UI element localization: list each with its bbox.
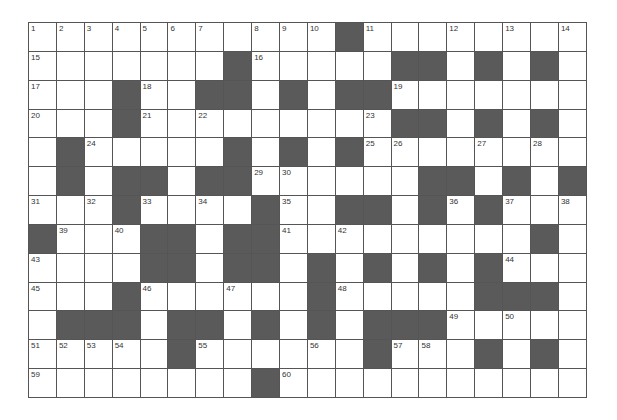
crossword-cell[interactable]: 34 [196, 196, 224, 225]
crossword-cell[interactable] [336, 369, 364, 398]
crossword-cell[interactable] [113, 369, 141, 398]
crossword-cell[interactable] [113, 254, 141, 283]
crossword-cell[interactable]: 11 [364, 23, 392, 52]
crossword-cell[interactable]: 54 [113, 340, 141, 369]
crossword-cell[interactable] [364, 52, 392, 81]
crossword-cell[interactable] [531, 254, 559, 283]
crossword-cell[interactable] [447, 81, 475, 110]
crossword-cell[interactable] [531, 81, 559, 110]
crossword-cell[interactable] [280, 340, 308, 369]
crossword-cell[interactable] [503, 138, 531, 167]
crossword-cell[interactable] [336, 110, 364, 139]
crossword-cell[interactable] [57, 196, 85, 225]
crossword-cell[interactable] [392, 369, 420, 398]
crossword-cell[interactable] [447, 369, 475, 398]
crossword-cell[interactable] [447, 52, 475, 81]
crossword-cell[interactable]: 47 [224, 283, 252, 312]
crossword-cell[interactable]: 41 [280, 225, 308, 254]
crossword-cell[interactable]: 13 [503, 23, 531, 52]
crossword-cell[interactable] [85, 225, 113, 254]
crossword-cell[interactable] [559, 340, 587, 369]
crossword-cell[interactable]: 46 [141, 283, 169, 312]
crossword-cell[interactable]: 31 [29, 196, 57, 225]
crossword-cell[interactable] [29, 167, 57, 196]
crossword-cell[interactable]: 17 [29, 81, 57, 110]
crossword-cell[interactable]: 39 [57, 225, 85, 254]
crossword-cell[interactable] [447, 254, 475, 283]
crossword-cell[interactable] [503, 52, 531, 81]
crossword-cell[interactable] [308, 167, 336, 196]
crossword-cell[interactable]: 1 [29, 23, 57, 52]
crossword-cell[interactable] [559, 110, 587, 139]
crossword-cell[interactable] [196, 283, 224, 312]
crossword-cell[interactable] [392, 254, 420, 283]
crossword-cell[interactable] [113, 52, 141, 81]
crossword-cell[interactable] [447, 225, 475, 254]
crossword-cell[interactable] [57, 369, 85, 398]
crossword-cell[interactable] [475, 369, 503, 398]
crossword-cell[interactable]: 8 [252, 23, 280, 52]
crossword-cell[interactable]: 18 [141, 81, 169, 110]
crossword-cell[interactable] [168, 196, 196, 225]
crossword-cell[interactable] [141, 340, 169, 369]
crossword-cell[interactable] [29, 138, 57, 167]
crossword-cell[interactable] [85, 254, 113, 283]
crossword-cell[interactable]: 35 [280, 196, 308, 225]
crossword-cell[interactable] [168, 369, 196, 398]
crossword-cell[interactable]: 48 [336, 283, 364, 312]
crossword-cell[interactable] [364, 167, 392, 196]
crossword-cell[interactable] [252, 110, 280, 139]
crossword-cell[interactable] [475, 311, 503, 340]
crossword-cell[interactable] [336, 340, 364, 369]
crossword-cell[interactable]: 55 [196, 340, 224, 369]
crossword-cell[interactable] [503, 369, 531, 398]
crossword-cell[interactable] [559, 283, 587, 312]
crossword-cell[interactable] [57, 254, 85, 283]
crossword-cell[interactable] [252, 138, 280, 167]
crossword-cell[interactable] [141, 311, 169, 340]
crossword-cell[interactable] [364, 283, 392, 312]
crossword-cell[interactable] [280, 283, 308, 312]
crossword-cell[interactable] [168, 110, 196, 139]
crossword-cell[interactable]: 6 [168, 23, 196, 52]
crossword-cell[interactable] [503, 110, 531, 139]
crossword-cell[interactable]: 26 [392, 138, 420, 167]
crossword-cell[interactable]: 16 [252, 52, 280, 81]
crossword-cell[interactable] [252, 283, 280, 312]
crossword-cell[interactable]: 52 [57, 340, 85, 369]
crossword-cell[interactable] [531, 196, 559, 225]
crossword-cell[interactable] [531, 167, 559, 196]
crossword-cell[interactable] [503, 340, 531, 369]
crossword-cell[interactable]: 2 [57, 23, 85, 52]
crossword-cell[interactable] [419, 225, 447, 254]
crossword-cell[interactable]: 44 [503, 254, 531, 283]
crossword-cell[interactable] [392, 23, 420, 52]
crossword-cell[interactable] [531, 311, 559, 340]
crossword-cell[interactable] [447, 138, 475, 167]
crossword-cell[interactable] [29, 311, 57, 340]
crossword-cell[interactable]: 45 [29, 283, 57, 312]
crossword-cell[interactable]: 23 [364, 110, 392, 139]
crossword-cell[interactable] [141, 138, 169, 167]
crossword-cell[interactable] [280, 311, 308, 340]
crossword-cell[interactable] [531, 369, 559, 398]
crossword-cell[interactable] [392, 283, 420, 312]
crossword-cell[interactable] [252, 81, 280, 110]
crossword-cell[interactable] [419, 283, 447, 312]
crossword-cell[interactable]: 58 [419, 340, 447, 369]
crossword-cell[interactable] [336, 52, 364, 81]
crossword-cell[interactable] [364, 369, 392, 398]
crossword-cell[interactable] [475, 81, 503, 110]
crossword-cell[interactable] [392, 196, 420, 225]
crossword-cell[interactable] [196, 254, 224, 283]
crossword-cell[interactable] [308, 196, 336, 225]
crossword-cell[interactable] [308, 369, 336, 398]
crossword-cell[interactable] [447, 110, 475, 139]
crossword-cell[interactable] [531, 23, 559, 52]
crossword-cell[interactable] [85, 167, 113, 196]
crossword-cell[interactable]: 19 [392, 81, 420, 110]
crossword-cell[interactable] [196, 52, 224, 81]
crossword-cell[interactable]: 21 [141, 110, 169, 139]
crossword-cell[interactable] [168, 283, 196, 312]
crossword-cell[interactable] [392, 225, 420, 254]
